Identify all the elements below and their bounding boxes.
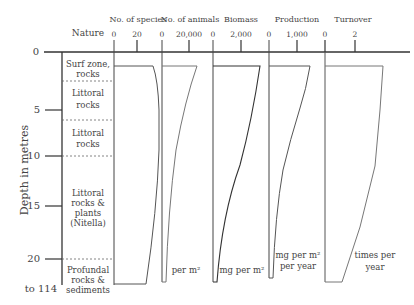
- svg-text:No. of species: No. of species: [110, 15, 167, 24]
- svg-text:rocks &: rocks &: [71, 275, 105, 285]
- svg-text:Production: Production: [275, 15, 320, 24]
- svg-text:0: 0: [211, 30, 216, 39]
- panel-animals: No. of animals 0 20,000 per m²: [160, 15, 220, 282]
- svg-text:2: 2: [353, 30, 358, 39]
- depth-tick-10: 10: [27, 150, 40, 161]
- svg-text:rocks &: rocks &: [71, 198, 105, 208]
- panel-production: Production 0 1,000 mg per m² per year: [267, 15, 321, 278]
- svg-text:mg per m²: mg per m²: [276, 250, 321, 260]
- svg-text:Biomass: Biomass: [224, 15, 258, 24]
- svg-text:1,000: 1,000: [286, 30, 308, 39]
- svg-text:mg per m²: mg per m²: [220, 265, 265, 275]
- svg-text:0: 0: [112, 30, 117, 39]
- nature-header: Nature: [72, 28, 104, 38]
- depth-tick-15: 15: [27, 200, 40, 211]
- depth-profile-chart: Depth in metres 0 5 10 15 20 to 114 Natu…: [0, 0, 414, 305]
- svg-text:No. of animals: No. of animals: [161, 15, 220, 24]
- depth-tick-bottom: to 114: [25, 283, 57, 294]
- svg-text:Littoral: Littoral: [72, 188, 104, 198]
- depth-tick-20: 20: [27, 253, 40, 264]
- svg-text:Littoral: Littoral: [72, 128, 104, 138]
- svg-text:Profundal: Profundal: [67, 265, 110, 275]
- svg-text:20,000: 20,000: [176, 30, 202, 39]
- depth-ticks: [45, 110, 62, 259]
- svg-text:rocks: rocks: [76, 139, 99, 149]
- svg-text:year: year: [365, 262, 386, 272]
- svg-text:rocks: rocks: [76, 69, 99, 79]
- svg-text:0: 0: [267, 30, 272, 39]
- depth-tick-0: 0: [33, 46, 39, 57]
- svg-text:(Nitella): (Nitella): [70, 218, 106, 228]
- svg-text:20: 20: [132, 30, 142, 39]
- svg-text:per m²: per m²: [172, 265, 201, 275]
- svg-text:0: 0: [323, 30, 328, 39]
- svg-text:times per: times per: [355, 250, 397, 260]
- svg-text:Littoral: Littoral: [72, 88, 104, 98]
- zone-labels: Surf zone, rocks Littoral rocks Littoral…: [66, 59, 110, 295]
- depth-tick-5: 5: [34, 104, 40, 115]
- svg-text:sediments: sediments: [66, 285, 110, 295]
- svg-text:0: 0: [160, 30, 165, 39]
- svg-text:plants: plants: [75, 208, 101, 218]
- panel-turnover: Turnover 0 2 times per year: [323, 15, 397, 282]
- svg-text:2,000: 2,000: [230, 30, 252, 39]
- svg-text:Turnover: Turnover: [334, 15, 372, 24]
- svg-text:Surf zone,: Surf zone,: [66, 59, 110, 69]
- svg-text:per year: per year: [280, 261, 317, 271]
- svg-text:rocks: rocks: [76, 100, 99, 110]
- panel-species: No. of species 0 20: [110, 15, 167, 285]
- panel-biomass: Biomass 0 2,000 mg per m²: [211, 15, 265, 282]
